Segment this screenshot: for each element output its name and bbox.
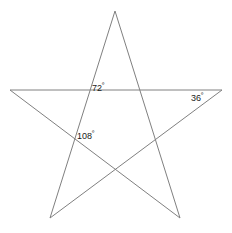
angle-value-36: 36 [191, 93, 201, 103]
degree-symbol-icon: º [201, 92, 203, 98]
angle-label-72: 72º [92, 82, 104, 93]
star-edge-left-to-bottom-right [10, 90, 180, 218]
pentagram-diagram: 72º 36º 108º [0, 0, 232, 233]
star-edge-bottom-right-to-apex [115, 11, 180, 218]
angle-label-36: 36º [191, 92, 203, 103]
angle-label-108: 108º [77, 130, 94, 141]
star-edge-bottom-left-to-right [50, 90, 222, 218]
star-edge-apex-to-bottom-left [50, 11, 115, 218]
degree-symbol-icon: º [92, 130, 94, 136]
star-line-group [10, 11, 222, 218]
star-figure-svg [0, 0, 232, 233]
degree-symbol-icon: º [102, 82, 104, 88]
angle-value-72: 72 [92, 83, 102, 93]
angle-value-108: 108 [77, 131, 92, 141]
